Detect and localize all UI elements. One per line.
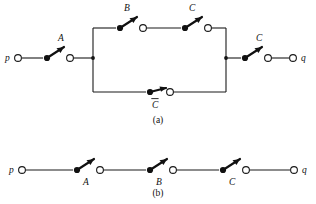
caption-panel-b: (b) — [152, 188, 163, 199]
panel-a: p A B — [4, 3, 306, 126]
switch-a-b-label: A — [82, 177, 89, 187]
switch-c-out-label: C — [256, 33, 263, 43]
switch-b-b-contact — [170, 167, 177, 174]
caption-panel-a: (a) — [153, 115, 164, 126]
switch-b-label: B — [124, 3, 130, 13]
switch-cbar-panel-a[interactable]: C — [147, 87, 174, 110]
switch-b-panel-b[interactable]: B — [147, 159, 177, 187]
switch-c-top-contact — [205, 25, 212, 32]
panel-a-bottom-branch: C — [93, 87, 226, 110]
terminal-label-q-a: q — [301, 53, 306, 63]
switch-c-out-contact — [265, 55, 272, 62]
figure-canvas: p A B — [0, 0, 316, 204]
terminal-p-a[interactable] — [15, 55, 22, 62]
terminal-p-b[interactable] — [19, 167, 26, 174]
panel-a-input-branch: p A — [4, 33, 95, 63]
switch-a-label: A — [57, 33, 64, 43]
switch-c-panel-b[interactable]: C — [220, 159, 250, 187]
switch-a-contact — [67, 55, 74, 62]
terminal-label-p-b: p — [8, 165, 14, 175]
panel-a-parallel-rails — [93, 28, 226, 92]
switch-cbar-contact — [167, 89, 174, 96]
switch-c-top-panel-a[interactable]: C — [182, 3, 212, 31]
terminal-q-b[interactable] — [291, 167, 298, 174]
switch-c-top-label: C — [189, 3, 196, 13]
switch-a-b-contact — [97, 167, 104, 174]
panel-a-top-branch: B C — [93, 3, 226, 31]
switch-a-panel-b[interactable]: A — [74, 159, 104, 187]
switch-b-b-label: B — [156, 177, 162, 187]
terminal-label-q-b: q — [302, 165, 307, 175]
panel-b: p A B C q (b) — [8, 159, 307, 199]
switch-b-contact — [140, 25, 147, 32]
switch-b-panel-a[interactable]: B — [117, 3, 147, 31]
switch-cbar-label: C — [152, 100, 159, 110]
switch-c-b-label: C — [229, 177, 236, 187]
terminal-q-a[interactable] — [290, 55, 297, 62]
panel-a-output-branch: C q — [224, 33, 306, 63]
switch-c-out-panel-a[interactable]: C — [242, 33, 272, 61]
switching-circuit-figure: p A B — [0, 0, 316, 204]
switch-c-b-contact — [243, 167, 250, 174]
switch-a-panel-a[interactable]: A — [44, 33, 74, 61]
terminal-label-p-a: p — [4, 53, 10, 63]
